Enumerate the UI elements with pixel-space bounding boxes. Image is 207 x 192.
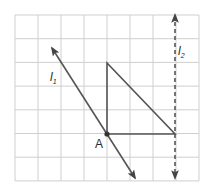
- line-l2-label: l2: [178, 44, 185, 59]
- line-l1-label: l1: [50, 70, 57, 85]
- triangle: [107, 63, 175, 134]
- line-l1: [52, 48, 135, 178]
- point-a-dot: [104, 131, 109, 136]
- geometry-figure: A l1 l2: [0, 0, 207, 192]
- point-a-label: A: [95, 137, 103, 151]
